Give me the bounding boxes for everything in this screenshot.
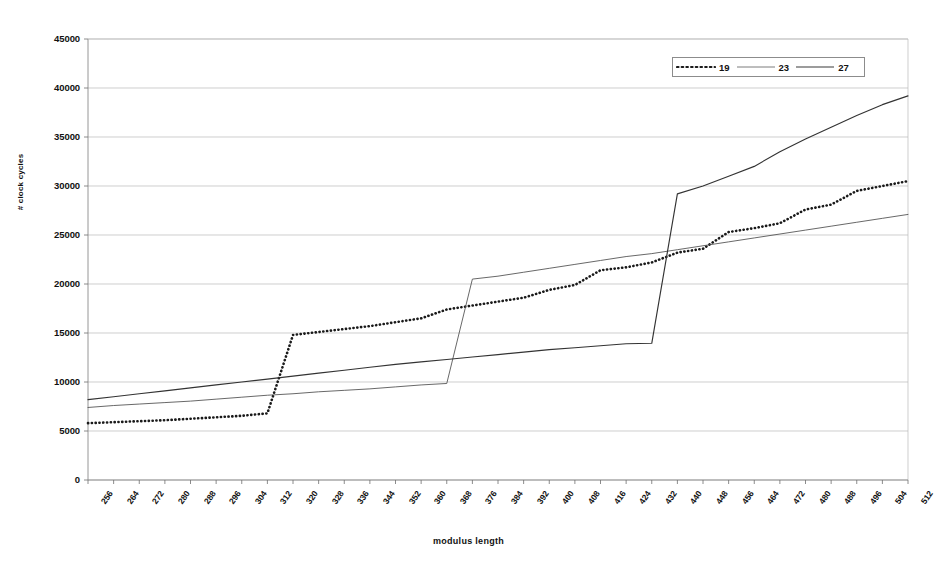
legend-item-2[interactable]: 27 xyxy=(792,58,852,76)
axis-lines xyxy=(88,39,908,480)
plot-area xyxy=(0,0,937,569)
legend-swatch-dotted-icon xyxy=(676,62,716,72)
chart-container: # clock cycles modulus length 0500010000… xyxy=(0,0,937,569)
series-line-19 xyxy=(88,181,908,423)
legend-label-0: 19 xyxy=(719,62,730,73)
legend: 19 23 27 xyxy=(672,57,865,77)
legend-label-1: 23 xyxy=(779,62,790,73)
series-line-23 xyxy=(88,214,908,407)
legend-item-1[interactable]: 23 xyxy=(733,58,793,76)
legend-swatch-solid-line-icon xyxy=(795,62,835,72)
data-series-layer xyxy=(88,96,908,423)
gridlines xyxy=(88,39,908,480)
legend-label-2: 27 xyxy=(838,62,849,73)
series-line-27 xyxy=(88,96,908,400)
y-axis-tick-marks xyxy=(84,39,88,480)
legend-item-0[interactable]: 19 xyxy=(673,58,733,76)
legend-swatch-thin-line-icon xyxy=(736,62,776,72)
x-axis-tick-marks xyxy=(88,480,908,484)
